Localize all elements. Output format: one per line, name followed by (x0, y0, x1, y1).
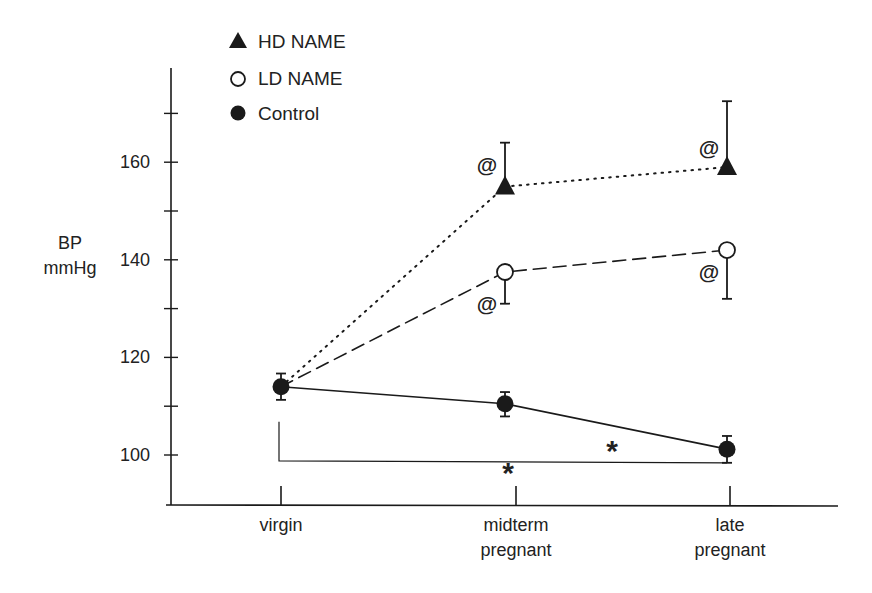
y-ticks: 100120140160 (120, 113, 178, 465)
significance-at-marker: @ (699, 260, 719, 283)
legend: HD NAME LD NAME Control (229, 31, 346, 124)
y-axis-title-line1: BP (58, 233, 82, 253)
filled-circle-icon (497, 395, 514, 412)
x-axis (166, 505, 838, 506)
significance-at-marker: @ (699, 136, 719, 159)
significance-at-marker: @ (477, 292, 497, 315)
open-circle-icon (719, 242, 735, 258)
x-ticks: virginmidtermpregnantlatepregnant (259, 486, 765, 560)
filled-triangle-icon (229, 32, 247, 48)
significance-asterisk: * (502, 456, 514, 489)
significance-asterisk: * (606, 434, 618, 467)
x-category-label: virgin (259, 515, 302, 535)
legend-label-ld: LD NAME (258, 68, 342, 89)
x-category-label: late (715, 515, 744, 535)
legend-item-hd: HD NAME (229, 31, 346, 52)
y-axis-title-line2: mmHg (44, 258, 97, 278)
filled-circle-icon (231, 106, 246, 121)
y-tick-label: 160 (120, 152, 150, 172)
open-circle-icon (497, 264, 513, 280)
y-tick-label: 120 (120, 347, 150, 367)
legend-item-control: Control (231, 103, 320, 124)
significance-at-marker: @ (477, 153, 497, 176)
annotations: @@@@** (477, 136, 719, 489)
bp-line-chart: HD NAME LD NAME Control BP mmHg 10012014… (0, 0, 872, 593)
open-circle-icon (231, 72, 245, 86)
filled-circle-icon (719, 441, 736, 458)
x-category-label: midterm (483, 515, 548, 535)
filled-triangle-icon (717, 156, 737, 175)
legend-item-ld: LD NAME (231, 68, 342, 89)
x-category-label: pregnant (480, 540, 551, 560)
y-tick-label: 100 (120, 445, 150, 465)
x-category-label: pregnant (694, 540, 765, 560)
legend-label-hd: HD NAME (258, 31, 346, 52)
y-tick-label: 140 (120, 250, 150, 270)
legend-label-control: Control (258, 103, 319, 124)
filled-circle-icon (273, 378, 290, 395)
